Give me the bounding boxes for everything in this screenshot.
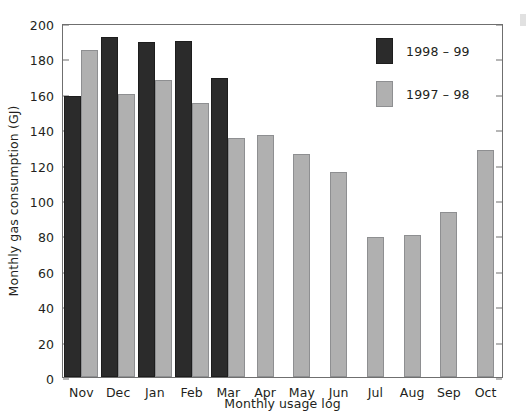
legend-label: 1997 – 98 xyxy=(406,87,470,102)
bar-group xyxy=(100,25,137,377)
bar xyxy=(211,78,228,377)
legend-entry: 1997 – 98 xyxy=(376,81,470,107)
bar xyxy=(257,135,274,377)
y-tick-mark-right xyxy=(496,379,502,380)
y-tick-mark xyxy=(63,379,69,380)
bar xyxy=(101,37,118,377)
bar-group xyxy=(320,25,357,377)
x-axis-title: Monthly usage log xyxy=(62,396,503,411)
bar xyxy=(138,42,155,377)
legend-swatch xyxy=(376,81,393,107)
bar xyxy=(175,41,192,377)
bar xyxy=(440,212,457,377)
y-tick-label: 0 xyxy=(46,372,63,387)
bar-group xyxy=(467,25,504,377)
corner-artifact xyxy=(520,14,526,26)
bar xyxy=(330,172,347,377)
bar xyxy=(293,154,310,377)
legend-entry: 1998 – 99 xyxy=(376,38,470,64)
y-tick-label: 80 xyxy=(38,230,63,245)
y-tick-label: 60 xyxy=(38,265,63,280)
y-axis-title: Monthly gas consumption (GJ) xyxy=(6,24,22,378)
bar xyxy=(228,138,245,377)
y-tick-label: 200 xyxy=(30,18,63,33)
bar xyxy=(404,235,421,377)
bar-group xyxy=(284,25,321,377)
bar xyxy=(81,50,98,377)
y-tick-label: 160 xyxy=(30,88,63,103)
legend-swatch xyxy=(376,38,393,64)
bar-chart-figure: Monthly gas consumption (GJ) 02040608010… xyxy=(0,0,532,417)
y-tick-label: 40 xyxy=(38,301,63,316)
bar xyxy=(155,80,172,377)
bar xyxy=(367,237,384,377)
bar-group xyxy=(173,25,210,377)
bar xyxy=(118,94,135,377)
y-tick-label: 120 xyxy=(30,159,63,174)
bar-group xyxy=(63,25,100,377)
bar xyxy=(64,96,81,377)
bar-group xyxy=(210,25,247,377)
bar xyxy=(477,150,494,377)
y-tick-label: 180 xyxy=(30,53,63,68)
bar-group xyxy=(137,25,174,377)
legend-label: 1998 – 99 xyxy=(406,44,470,59)
bar xyxy=(192,103,209,377)
bar-group xyxy=(247,25,284,377)
y-tick-label: 100 xyxy=(30,195,63,210)
y-tick-label: 20 xyxy=(38,336,63,351)
chart-legend: 1998 – 991997 – 98 xyxy=(376,38,470,107)
y-tick-label: 140 xyxy=(30,124,63,139)
